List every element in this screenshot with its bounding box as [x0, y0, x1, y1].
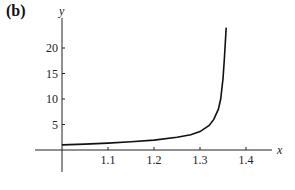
y-tick-label: 10 [46, 92, 58, 106]
x-tick-label: 1.4 [239, 153, 254, 167]
x-tick-label: 1.1 [101, 153, 116, 167]
data-curve [62, 28, 226, 145]
y-axis-label: y [58, 4, 65, 18]
x-axis-label: x [276, 143, 283, 157]
axes: xy [35, 4, 283, 172]
ticks: 1.11.21.31.45101520 [46, 41, 254, 167]
x-tick-label: 1.2 [147, 153, 162, 167]
y-tick-label: 20 [46, 41, 58, 55]
y-tick-label: 15 [46, 67, 58, 81]
plot-area: xy 1.11.21.31.45101520 [0, 0, 295, 190]
y-tick-label: 5 [52, 118, 58, 132]
x-tick-label: 1.3 [193, 153, 208, 167]
